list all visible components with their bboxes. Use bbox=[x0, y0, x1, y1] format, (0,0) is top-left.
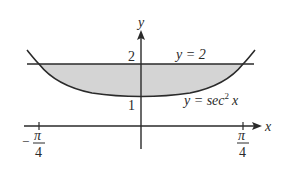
x-tick-label-pos-den: 4 bbox=[239, 145, 246, 160]
y-tick-label-1: 1 bbox=[128, 98, 135, 113]
x-tick-label-neg-den: 4 bbox=[35, 145, 42, 160]
x-tick-label-pos-num: π bbox=[238, 128, 246, 143]
x-tick-label-neg-sign: − bbox=[22, 134, 29, 149]
x-tick-label-neg-num: π bbox=[34, 128, 42, 143]
label-y-equals-2: y = 2 bbox=[174, 47, 206, 62]
y-axis-label: y bbox=[136, 15, 145, 30]
label-y-sec-squared-x: y = sec2x bbox=[182, 91, 239, 108]
x-axis-label: x bbox=[264, 119, 272, 134]
y-tick-label-2: 2 bbox=[128, 49, 135, 64]
graph: y x 2 1 y = 2 y = sec2x − π 4 π 4 bbox=[0, 0, 287, 185]
